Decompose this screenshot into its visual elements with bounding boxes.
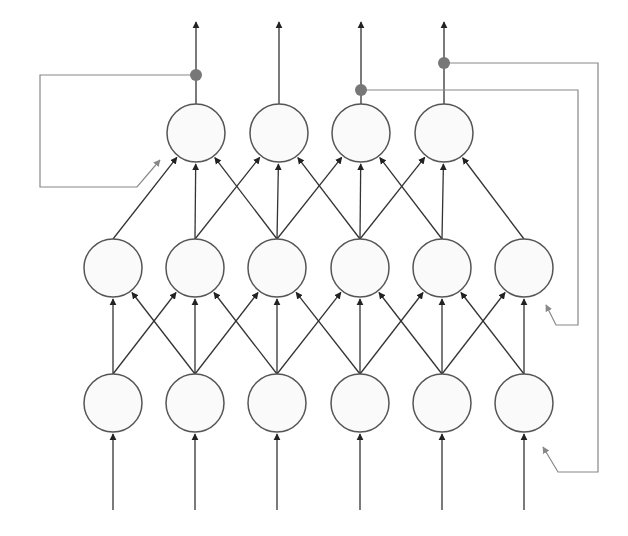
edge-middle-to-top <box>215 158 277 239</box>
bottom-node <box>413 374 471 432</box>
middle-node <box>166 239 224 297</box>
top-node <box>250 104 308 162</box>
edge-bottom-to-middle <box>360 293 423 374</box>
edge-middle-to-top <box>298 158 360 239</box>
edge-middle-to-top <box>463 158 524 239</box>
edge-middle-to-top <box>380 158 442 239</box>
edge-bottom-to-middle <box>113 293 176 374</box>
edge-bottom-to-middle <box>296 292 360 374</box>
edge-bottom-to-middle <box>132 293 195 374</box>
edge-bottom-to-middle <box>379 293 442 374</box>
edge-middle-to-top <box>277 157 342 239</box>
top-node <box>415 104 473 162</box>
bottom-node <box>166 374 224 432</box>
edge-middle-to-top <box>277 164 278 239</box>
tap-dot <box>355 84 367 96</box>
tap-dot <box>438 57 450 69</box>
middle-node <box>413 239 471 297</box>
edge-middle-to-top <box>195 157 260 239</box>
edge-middle-to-top <box>113 157 177 239</box>
middle-node <box>331 239 389 297</box>
edge-bottom-to-middle <box>214 293 277 374</box>
edge-middle-to-top <box>360 164 361 239</box>
edge-bottom-to-middle <box>195 293 258 374</box>
bottom-node <box>331 374 389 432</box>
bottom-node <box>248 374 306 432</box>
edge-bottom-to-middle <box>277 292 341 374</box>
tap-dot <box>190 69 202 81</box>
top-node <box>332 104 390 162</box>
bottom-node <box>84 374 142 432</box>
middle-node <box>84 239 142 297</box>
diagram-canvas <box>0 0 628 536</box>
edge-middle-to-top <box>195 164 196 239</box>
edge-bottom-to-middle <box>442 293 505 374</box>
edge-bottom-to-middle <box>461 293 524 374</box>
edge-middle-to-top <box>360 157 425 239</box>
top-node <box>167 104 225 162</box>
network-diagram <box>0 0 628 536</box>
edge-middle-to-top <box>442 164 443 239</box>
middle-node <box>495 239 553 297</box>
middle-node <box>248 239 306 297</box>
bottom-node <box>495 374 553 432</box>
nodes <box>84 104 553 432</box>
